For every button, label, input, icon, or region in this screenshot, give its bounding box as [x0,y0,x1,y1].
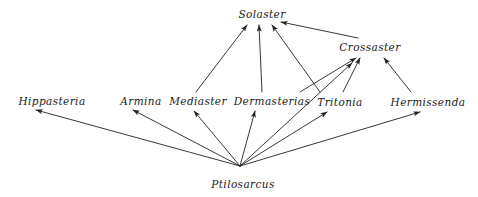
edge-arrow-hermissenda-crossaster [384,58,411,92]
node-label-solaster: Solaster [238,8,285,20]
node-label-tritonia: Tritonia [317,96,363,108]
node-label-mediaster: Mediaster [169,95,227,107]
edge-arrow-dermasterias-solaster [259,25,262,92]
edge-arrow-ptilosarcus-mediaster [194,111,240,166]
node-label-armina: Armina [120,95,161,107]
edge-arrow-ptilosarcus-tritonia [240,112,327,166]
edge-arrow-ptilosarcus-hippasteria [36,110,240,166]
edge-arrow-ptilosarcus-armina [133,110,240,166]
node-label-hippasteria: Hippasteria [18,95,85,107]
edge-arrow-tritonia-solaster [272,25,320,92]
edge-arrow-mediaster-solaster [196,25,247,92]
node-label-dermasterias: Dermasterias [234,95,311,107]
node-label-hermissenda: Hermissenda [391,96,466,108]
node-label-ptilosarcus: Ptilosarcus [211,178,274,190]
edge-arrow-crossaster-solaster [281,22,358,38]
node-label-crossaster: Crossaster [339,41,400,53]
edge-arrow-ptilosarcus-tritonia-b [240,63,352,166]
food-web-diagram: SolasterCrossasterHippasteriaArminaMedia… [0,0,478,197]
edge-arrow-ptilosarcus-hermissenda [240,112,420,166]
edge-arrow-dermasterias-crossaster [300,58,356,92]
